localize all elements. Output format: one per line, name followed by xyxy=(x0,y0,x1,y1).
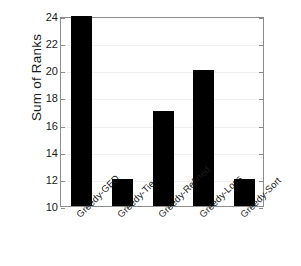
bar xyxy=(71,16,92,206)
axis-tick xyxy=(259,45,263,46)
axis-tick xyxy=(61,127,65,128)
axis-tick xyxy=(259,18,263,19)
axis-tick xyxy=(61,72,65,73)
axis-tick xyxy=(259,127,263,128)
axis-tick xyxy=(259,154,263,155)
y-axis-tick-label: 10 xyxy=(46,201,58,213)
y-axis-tick-label: 22 xyxy=(46,38,58,50)
y-axis-tick-label: 24 xyxy=(46,11,58,23)
y-axis-title: Sum of Ranks xyxy=(29,0,44,158)
y-axis-tick-label: 14 xyxy=(46,147,58,159)
y-axis-tick-label: 20 xyxy=(46,65,58,77)
axis-tick xyxy=(259,72,263,73)
y-axis-tick-label: 16 xyxy=(46,120,58,132)
axis-tick xyxy=(61,45,65,46)
axis-tick xyxy=(259,181,263,182)
bar-chart-figure: Sum of Ranks 1012141618202224 Greedy-GED… xyxy=(0,0,301,266)
axis-tick xyxy=(259,99,263,100)
bar xyxy=(153,111,174,206)
axis-tick xyxy=(61,154,65,155)
y-axis-tick-label: 12 xyxy=(46,174,58,186)
axis-tick xyxy=(61,208,65,209)
axis-tick xyxy=(61,99,65,100)
axis-tick xyxy=(259,208,263,209)
axis-tick xyxy=(61,181,65,182)
axis-tick xyxy=(61,18,65,19)
y-axis-tick-label: 18 xyxy=(46,92,58,104)
